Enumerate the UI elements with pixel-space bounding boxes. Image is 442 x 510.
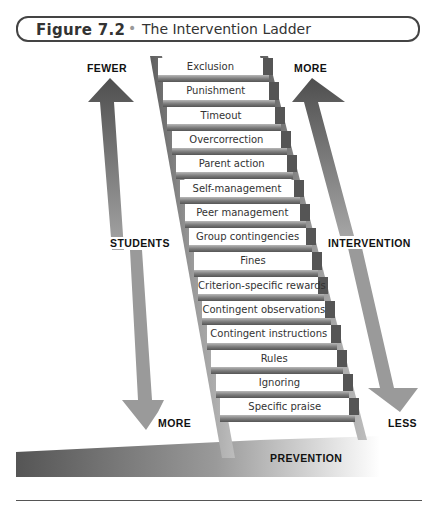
rung-bar xyxy=(194,270,318,277)
rung-label: Criterion-specific rewards xyxy=(198,280,318,291)
ladder-rung: Fines xyxy=(194,252,312,276)
rung-bar xyxy=(180,197,299,204)
ladder-rung: Criterion-specific rewards xyxy=(198,277,318,301)
rung-label: Self-management xyxy=(180,183,293,194)
students-bottom-label: MORE xyxy=(156,417,193,429)
rung-label: Ignoring xyxy=(216,377,343,388)
rung-label: Group contingencies xyxy=(189,231,306,242)
students-up-arrow-icon xyxy=(88,78,134,250)
rung-bar xyxy=(216,391,349,398)
ladder-rung: Peer management xyxy=(185,204,300,228)
rung-bar xyxy=(167,124,281,131)
intervention-top-label: MORE xyxy=(292,62,329,74)
rung-bar xyxy=(220,415,355,422)
rung-bar xyxy=(198,294,324,301)
ladder-rung: Specific praise xyxy=(220,398,349,422)
ladder-rung: Punishment xyxy=(163,82,269,106)
ladder-rung: Exclusion xyxy=(158,58,262,82)
rung-bar xyxy=(202,318,330,325)
ladder-rung: Group contingencies xyxy=(189,228,306,252)
intervention-down-arrow-icon xyxy=(348,248,418,412)
rung-label: Fines xyxy=(194,255,312,266)
rung-label: Contingent instructions xyxy=(207,328,331,339)
ladder-rung: Parent action xyxy=(176,155,287,179)
rung-label: Parent action xyxy=(176,158,287,169)
rung-label: Specific praise xyxy=(220,401,349,412)
rung-label: Rules xyxy=(211,353,337,364)
bottom-divider xyxy=(16,500,422,501)
ladder-rung: Self-management xyxy=(180,180,293,204)
rung-label: Punishment xyxy=(163,85,269,96)
intervention-middle-label: INTERVENTION xyxy=(326,237,413,249)
ladder-rung: Overcorrection xyxy=(172,131,282,155)
rung-label: Timeout xyxy=(167,110,275,121)
rung-bar xyxy=(207,343,337,350)
ladder-rung: Rules xyxy=(211,350,337,374)
rung-bar xyxy=(189,245,312,252)
rung-bar xyxy=(163,100,275,107)
students-top-label: FEWER xyxy=(85,62,129,74)
rung-bar xyxy=(185,221,306,228)
ladder-rung: Timeout xyxy=(167,107,275,131)
rung-label: Overcorrection xyxy=(172,134,282,145)
students-down-arrow-icon xyxy=(122,250,164,430)
rung-label: Exclusion xyxy=(158,61,262,72)
ladder-rung: Contingent instructions xyxy=(207,325,331,349)
prevention-label: PREVENTION xyxy=(268,452,344,464)
intervention-bottom-label: LESS xyxy=(386,417,419,429)
rung-bar xyxy=(211,367,343,374)
students-middle-label: STUDENTS xyxy=(108,237,172,249)
rung-bar xyxy=(158,75,268,82)
ladder-rung: Contingent observations xyxy=(202,301,324,325)
rung-bar xyxy=(176,172,293,179)
rung-label: Contingent observations xyxy=(202,304,324,315)
rung-bar xyxy=(172,148,288,155)
rung-label: Peer management xyxy=(185,207,300,218)
ladder-rung: Ignoring xyxy=(216,374,343,398)
